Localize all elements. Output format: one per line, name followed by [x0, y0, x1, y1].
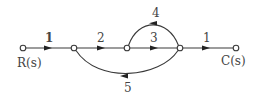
input-label: R(s)	[17, 56, 42, 70]
node-output	[233, 45, 239, 51]
arrow-icon	[150, 46, 158, 51]
gain-label-5: 5	[124, 81, 132, 95]
gain-label-3: 3	[150, 31, 158, 45]
node-4	[177, 45, 183, 51]
output-label: C(s)	[221, 54, 246, 68]
arrow-icon	[202, 46, 210, 51]
node-2	[71, 45, 77, 51]
gain-label-1: 1	[45, 31, 53, 45]
node-input	[20, 45, 26, 51]
arrow-icon	[44, 46, 52, 51]
gain-label-4: 4	[152, 6, 160, 20]
edge-n4-to-n2-arc	[76, 51, 178, 74]
arrow-icon	[120, 74, 128, 79]
node-3	[124, 45, 130, 51]
gain-label-out: 1	[203, 31, 211, 45]
arrow-icon	[97, 46, 105, 51]
signal-flow-graph: 1 2 3 4 5 1 R(s) C(s)	[0, 0, 259, 98]
gain-label-2: 2	[97, 31, 105, 45]
